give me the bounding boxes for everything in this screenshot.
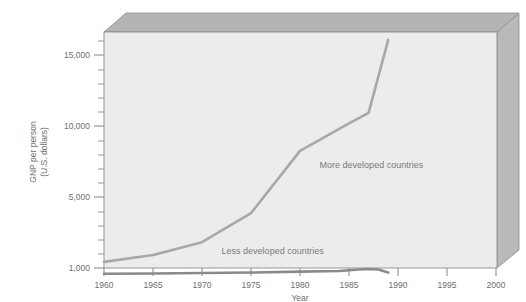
x-tick-label-1960: 1960 — [95, 280, 114, 290]
series-annotation-more-developed: More developed countries — [320, 160, 424, 170]
x-tick-label-1985: 1985 — [340, 280, 359, 290]
y-tick-label-5000: 5,000 — [69, 192, 91, 202]
series-line-less-developed — [104, 269, 388, 274]
gnp-line-chart: 1,000 5,000 10,000 15,000 GNP per person… — [0, 0, 526, 302]
x-tick-label-1965: 1965 — [144, 280, 163, 290]
y-axis-title-line1: GNP per person — [28, 121, 38, 183]
x-tick-label-1995: 1995 — [438, 280, 457, 290]
y-tick-label-1000: 1,000 — [69, 263, 91, 273]
y-tick-label-15000: 15,000 — [64, 50, 90, 60]
y-axis-major-ticks — [94, 55, 104, 268]
y-axis-title-line2: (U.S. dollars) — [39, 127, 49, 177]
y-axis-minor-ticks — [98, 41, 104, 254]
y-axis-title: GNP per person (U.S. dollars) — [28, 121, 49, 183]
y-tick-label-10000: 10,000 — [64, 121, 90, 131]
series-annotation-less-developed: Less developed countries — [222, 246, 325, 256]
x-tick-label-1990: 1990 — [389, 280, 408, 290]
x-tick-label-2000: 2000 — [487, 280, 506, 290]
chart-box-top-face — [104, 13, 519, 32]
x-tick-label-1975: 1975 — [242, 280, 261, 290]
x-axis-title: Year — [291, 293, 308, 302]
x-tick-label-1970: 1970 — [193, 280, 212, 290]
chart-figure: 1,000 5,000 10,000 15,000 GNP per person… — [0, 0, 526, 302]
x-tick-label-1980: 1980 — [291, 280, 310, 290]
chart-box-right-face — [497, 13, 519, 268]
